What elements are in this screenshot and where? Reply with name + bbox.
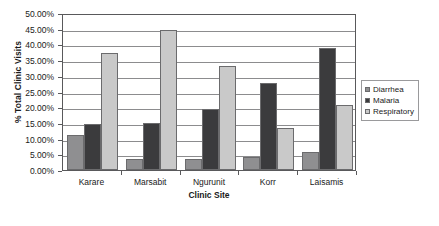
y-tick-mark [58, 140, 62, 141]
legend-swatch-malaria [365, 98, 370, 103]
bar-group [302, 15, 353, 170]
bar-chart: % Total Clinic Visits 0.00%5.00%10.00%15… [0, 0, 439, 226]
y-tick-label: 50.00% [2, 9, 54, 19]
y-tick-label: 20.00% [2, 103, 54, 113]
legend-label: Respiratory [373, 106, 414, 117]
y-tick-mark [58, 61, 62, 62]
bar-malaria-laisamis [319, 48, 336, 170]
y-tick-mark [58, 124, 62, 125]
bar-respiratory-korr [277, 128, 294, 170]
bar-diarrhea-ngurunit [185, 159, 202, 170]
bar-malaria-karare [84, 124, 101, 170]
bar-group [126, 15, 177, 170]
bar-respiratory-laisamis [336, 105, 353, 170]
y-tick-label: 35.00% [2, 56, 54, 66]
y-tick-mark [58, 45, 62, 46]
bar-diarrhea-marsabit [126, 159, 143, 170]
x-tick-label-laisamis: Laisamis [287, 177, 367, 187]
legend-item-respiratory: Respiratory [365, 106, 414, 117]
legend-label: Diarrhea [373, 84, 404, 95]
plot-area [62, 14, 356, 171]
x-tick-mark [121, 171, 122, 175]
x-tick-mark [297, 171, 298, 175]
y-tick-mark [58, 108, 62, 109]
y-tick-mark [58, 171, 62, 172]
bar-respiratory-karare [101, 53, 118, 170]
legend-label: Malaria [373, 95, 399, 106]
y-tick-label: 0.00% [2, 166, 54, 176]
y-tick-label: 45.00% [2, 25, 54, 35]
x-tick-mark [180, 171, 181, 175]
legend-swatch-respiratory [365, 109, 370, 114]
legend-swatch-diarrhea [365, 87, 370, 92]
bar-respiratory-ngurunit [219, 66, 236, 170]
y-tick-mark [58, 93, 62, 94]
y-tick-mark [58, 14, 62, 15]
bar-diarrhea-korr [243, 157, 260, 170]
bar-diarrhea-karare [67, 135, 84, 170]
x-tick-mark [238, 171, 239, 175]
y-tick-label: 25.00% [2, 88, 54, 98]
y-tick-mark [58, 155, 62, 156]
y-tick-label: 10.00% [2, 135, 54, 145]
legend-item-malaria: Malaria [365, 95, 414, 106]
y-tick-mark [58, 30, 62, 31]
legend-item-diarrhea: Diarrhea [365, 84, 414, 95]
x-axis-title: Clinic Site [62, 190, 356, 200]
bar-group [185, 15, 236, 170]
y-tick-mark [58, 77, 62, 78]
chart-legend: DiarrheaMalariaRespiratory [361, 80, 419, 121]
y-tick-label: 40.00% [2, 40, 54, 50]
bar-group [243, 15, 294, 170]
y-tick-label: 15.00% [2, 119, 54, 129]
x-tick-mark [356, 171, 357, 175]
bar-diarrhea-laisamis [302, 152, 319, 170]
y-tick-label: 30.00% [2, 72, 54, 82]
y-tick-label: 5.00% [2, 150, 54, 160]
bar-malaria-marsabit [143, 123, 160, 170]
bar-respiratory-marsabit [160, 30, 177, 170]
bar-group [67, 15, 118, 170]
bar-malaria-ngurunit [202, 109, 219, 170]
bar-malaria-korr [260, 83, 277, 170]
